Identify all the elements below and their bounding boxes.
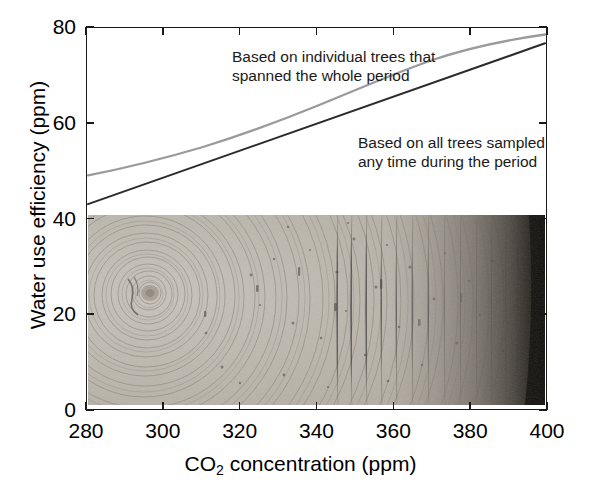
x-tick-top-280 [85,27,87,35]
x-tick-320 [239,402,241,410]
x-tick-label-400: 400 [512,420,582,441]
x-axis-title: CO2 concentration (ppm) [0,452,601,478]
y-tick-label-0: 0 [16,399,76,420]
x-tick-label-380: 380 [435,420,505,441]
y-tick-right-60 [539,122,547,124]
x-tick-top-320 [239,27,241,35]
y-tick-right-0 [539,409,547,411]
y-axis-title: Water use efficiency (ppm) [26,10,50,400]
y-tick-80 [86,26,94,28]
x-axis-title-subscript: 2 [216,462,224,478]
x-tick-top-300 [162,27,164,35]
x-tick-380 [469,402,471,410]
x-tick-top-360 [393,27,395,35]
annotation-all-line2: any time during the period [358,152,545,171]
y-tick-60 [86,122,94,124]
annotation-all-trees: Based on all trees sampled any time duri… [358,133,545,171]
annotation-individual-trees: Based on individual trees that spanned t… [232,47,435,85]
figure-chart: Based on individual trees that spanned t… [0,0,601,493]
x-tick-360 [393,402,395,410]
annotation-all-line1: Based on all trees sampled [358,133,545,152]
x-tick-top-380 [469,27,471,35]
y-tick-right-20 [539,313,547,315]
x-tick-label-280: 280 [51,420,121,441]
y-tick-right-80 [539,26,547,28]
x-axis-title-suffix: concentration (ppm) [224,452,417,475]
x-tick-340 [316,402,318,410]
x-tick-label-340: 340 [282,420,352,441]
y-tick-20 [86,313,94,315]
annotation-individual-line1: Based on individual trees that [232,47,435,66]
x-tick-top-340 [316,27,318,35]
x-axis-title-prefix: CO [185,452,217,475]
y-tick-right-40 [539,218,547,220]
x-tick-top-400 [546,27,548,35]
x-tick-label-300: 300 [128,420,198,441]
x-tick-300 [162,402,164,410]
y-tick-0 [86,409,94,411]
y-tick-40 [86,218,94,220]
x-tick-label-320: 320 [205,420,275,441]
annotation-individual-line2: spanned the whole period [232,66,435,85]
x-tick-label-360: 360 [358,420,428,441]
